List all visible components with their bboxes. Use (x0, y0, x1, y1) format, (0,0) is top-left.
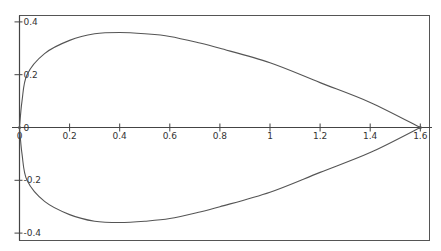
tip-point (419, 126, 422, 129)
plot-area: 0.20.40.60.811.21.41.600.40.20-0.2-0.4 (0, 0, 441, 251)
upper-curve (20, 32, 421, 127)
y-tick-label: -0.4 (24, 228, 42, 238)
x-tick-label: 0.4 (113, 131, 128, 141)
x-tick-label: 1.2 (313, 131, 327, 141)
x-tick-label: 1 (267, 131, 273, 141)
y-tick-label: 0.4 (24, 17, 39, 27)
x-tick-label: 1.6 (413, 131, 428, 141)
origin-point (18, 126, 21, 129)
x-tick-label: 0.6 (163, 131, 178, 141)
x-tick-label: 0.2 (62, 131, 76, 141)
x-tick-label: 0.8 (213, 131, 228, 141)
y-tick-label: 0 (24, 123, 30, 133)
lower-curve (20, 128, 421, 223)
x-tick-label: 1.4 (363, 131, 378, 141)
